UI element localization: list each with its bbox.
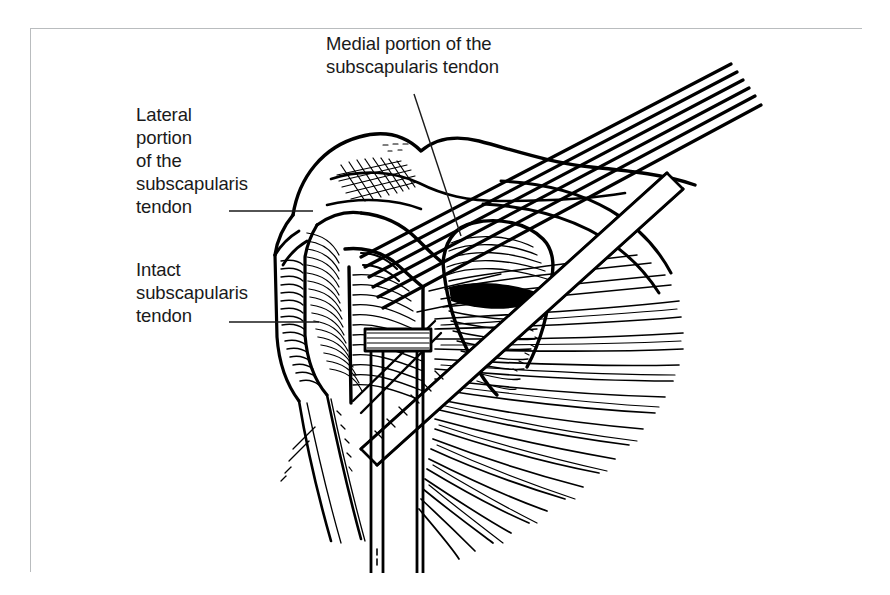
label-medial-portion: Medial portion of the subscapularis tend…	[326, 32, 499, 78]
label-lateral-portion: Lateral portion of the subscapularis ten…	[136, 103, 248, 218]
label-intact-tendon: Intact subscapularis tendon	[136, 258, 248, 327]
figure-page: Medial portion of the subscapularis tend…	[0, 0, 890, 595]
